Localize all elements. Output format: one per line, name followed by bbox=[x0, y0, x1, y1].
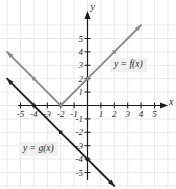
y-tick-label: 5 bbox=[79, 34, 84, 43]
x-tick-label: -3 bbox=[44, 110, 52, 119]
x-tick-label: -5 bbox=[17, 110, 25, 119]
f-function-label: y = f(x) bbox=[110, 58, 147, 72]
x-axis-name: x bbox=[169, 97, 173, 107]
x-tick-label: 1 bbox=[99, 110, 104, 119]
y-axis-name: y bbox=[91, 2, 95, 12]
y-tick-label: -3 bbox=[76, 141, 84, 150]
x-tick-label: 5 bbox=[152, 110, 157, 119]
y-tick-label: 4 bbox=[79, 47, 84, 56]
graph-figure: x y -5-4-3-2-11234554321-1-2-3-4-5 y = f… bbox=[0, 0, 176, 189]
y-tick-label: 2 bbox=[79, 74, 84, 83]
x-tick-label: 4 bbox=[139, 110, 144, 119]
x-tick-label: 3 bbox=[125, 110, 130, 119]
x-tick-label: 2 bbox=[112, 110, 117, 119]
g-function-label: y = g(x) bbox=[19, 142, 58, 156]
y-tick-label: -5 bbox=[76, 168, 84, 177]
y-tick-label: 1 bbox=[79, 88, 84, 97]
y-tick-label: -2 bbox=[76, 128, 84, 137]
x-tick-label: -4 bbox=[30, 110, 38, 119]
y-tick-label: 3 bbox=[79, 61, 84, 70]
coordinate-plane bbox=[0, 0, 176, 189]
x-tick-label: -2 bbox=[57, 110, 65, 119]
y-tick-label: -4 bbox=[76, 155, 84, 164]
y-tick-label: -1 bbox=[76, 114, 84, 123]
